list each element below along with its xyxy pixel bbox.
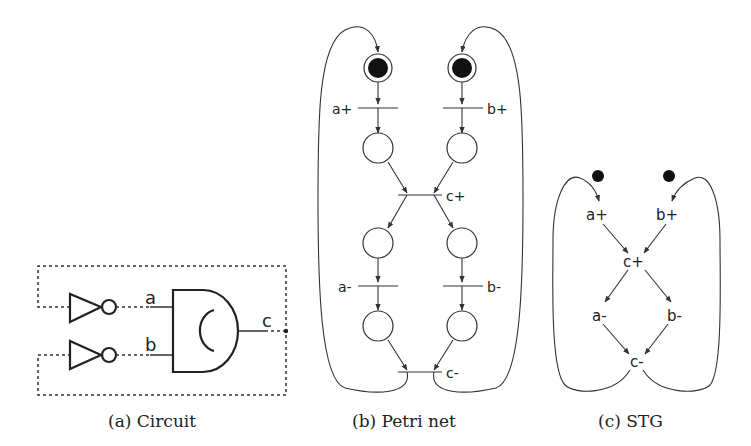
petri-net-panel: a+ b+ c+ a- b- c- [318,27,523,431]
circuit-panel: a b c (a) Circuit [38,266,288,431]
node-c-plus: c+ [623,253,644,271]
feedback-arc-right [434,27,523,392]
label-c-plus: c+ [446,188,465,204]
place [363,228,393,258]
place [363,133,393,163]
place-marked-a [364,54,392,82]
label-b-plus: b+ [487,101,508,117]
label-c: c [262,310,272,331]
node-c-minus: c- [630,353,644,371]
place [447,228,477,258]
place [363,311,393,341]
feedback-arc-left [318,27,407,392]
place [447,133,477,163]
inverter-b [70,341,116,369]
node-b-minus: b- [667,307,682,325]
label-b: b [145,334,156,355]
place-marked-b [448,54,476,82]
label-b-minus: b- [487,279,501,295]
c-element-gate [173,290,238,372]
label-a-minus: a- [338,279,352,295]
feedback-arc-right [643,177,720,391]
caption-petri-net: (b) Petri net [352,411,456,431]
node-a-minus: a- [592,307,607,325]
node-a-plus: a+ [586,206,608,224]
inverter-a [70,294,116,322]
label-c-minus: c- [446,365,459,381]
label-a: a [145,287,156,308]
place [447,311,477,341]
token-a [592,170,604,182]
caption-circuit: (a) Circuit [108,411,196,431]
stg-panel: a+ b+ c+ a- b- c- (c) STG [553,170,721,431]
token-b [663,170,675,182]
label-a-plus: a+ [332,101,352,117]
figure: a b c (a) Circuit a+ b+ c+ [0,0,751,446]
node-b-plus: b+ [656,206,678,224]
caption-stg: (c) STG [598,411,663,431]
